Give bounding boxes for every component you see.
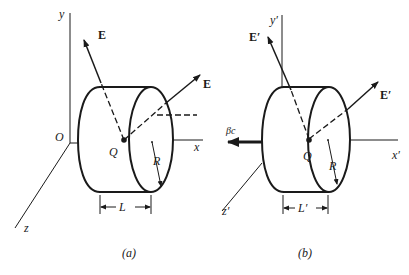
velocity-label: βc xyxy=(226,126,235,136)
field-label-upper: E xyxy=(98,29,106,41)
panel-b-caption: (b) xyxy=(298,247,312,259)
field-label-right: E xyxy=(203,78,211,90)
cylinder-left-end-b xyxy=(262,87,284,192)
cylinder-left-end xyxy=(78,87,100,192)
figure: y O z x E E Q R L (a) y′ z′ x′ E′ E′ βc … xyxy=(0,0,409,275)
z-prime-axis-label: z′ xyxy=(222,205,229,217)
charge-dot xyxy=(121,137,127,143)
field-vector-upper-b xyxy=(268,37,291,90)
field-vector-right xyxy=(166,75,200,103)
y-prime-axis-label: y′ xyxy=(270,14,278,26)
charge-dot-b xyxy=(306,137,312,143)
origin-label: O xyxy=(55,131,64,143)
x-axis-label: x xyxy=(194,141,199,153)
x-prime-axis-label: x′ xyxy=(392,149,400,161)
field-vector-right-b xyxy=(348,82,378,109)
length-label-b: L′ xyxy=(298,202,307,214)
radius-label: R xyxy=(153,155,160,167)
length-label: L xyxy=(119,201,126,213)
field-vector-upper xyxy=(84,40,101,83)
charge-label-b: Q xyxy=(303,150,312,162)
panel-a-caption: (a) xyxy=(122,247,136,259)
cylinder-right-end-b xyxy=(308,87,350,192)
panel-a xyxy=(15,13,203,228)
z-axis-label: z xyxy=(24,222,29,234)
radius-label-b: R xyxy=(329,160,336,172)
y-axis-label: y xyxy=(59,8,64,20)
charge-label: Q xyxy=(109,146,118,158)
field-label-right-b: E′ xyxy=(380,89,391,101)
panel-b xyxy=(222,15,398,214)
field-label-upper-b: E′ xyxy=(249,31,260,43)
z-axis xyxy=(15,143,70,228)
